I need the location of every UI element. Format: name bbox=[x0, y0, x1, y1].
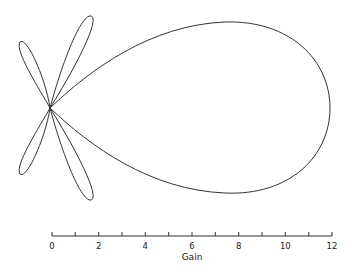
back-lobe-lower bbox=[19, 108, 50, 175]
tick-labels: 0 2 4 6 8 10 12 Gain bbox=[49, 241, 337, 262]
side-lobe-lower bbox=[50, 108, 93, 200]
main-lobe bbox=[50, 22, 330, 193]
tick-label: 6 bbox=[189, 241, 194, 251]
tick-label: 8 bbox=[236, 241, 241, 251]
tick-label: 0 bbox=[49, 241, 54, 251]
tick-label: 10 bbox=[280, 241, 291, 251]
back-lobe-upper bbox=[19, 41, 50, 108]
polar-gain-chart: 0 2 4 6 8 10 12 Gain bbox=[0, 0, 352, 278]
tick-label: 12 bbox=[327, 241, 338, 251]
radiation-pattern bbox=[19, 16, 330, 200]
side-lobe-upper bbox=[50, 16, 93, 108]
tick-label: 4 bbox=[143, 241, 148, 251]
axis-title: Gain bbox=[182, 252, 203, 262]
gain-axis bbox=[52, 232, 332, 236]
tick-label: 2 bbox=[96, 241, 101, 251]
